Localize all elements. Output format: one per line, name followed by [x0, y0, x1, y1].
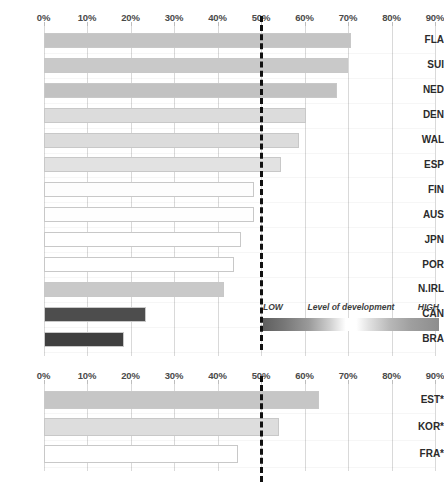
bar-est-	[44, 391, 320, 409]
vertical-gridline	[348, 384, 349, 471]
bottom-chart-plot-area: 0%10%20%30%40%50%60%70%80%90%EST*KOR*FRA…	[0, 370, 444, 488]
row-separator	[44, 227, 436, 228]
category-label-por: POR	[407, 259, 444, 270]
category-label-fra-: FRA*	[407, 448, 444, 459]
bar-aus	[44, 207, 254, 222]
row-separator	[44, 128, 436, 129]
fifty-percent-reference-line	[260, 376, 263, 482]
legend-gradient-bar	[263, 318, 439, 331]
bar-bra	[44, 332, 124, 347]
category-label-est-: EST*	[407, 394, 444, 405]
bar-fin	[44, 182, 255, 197]
category-label-wal: WAL	[407, 134, 444, 145]
bar-fra-	[44, 445, 239, 463]
development-level-legend: LOW Level of development HIGH	[263, 302, 439, 338]
bar-esp	[44, 157, 281, 172]
category-label-jpn: JPN	[407, 234, 444, 245]
bar-n-irl	[44, 282, 225, 297]
row-separator	[44, 467, 436, 468]
category-label-n-irl: N.IRL	[407, 283, 444, 294]
category-label-aus: AUS	[407, 209, 444, 220]
bar-sui	[44, 58, 349, 73]
bar-ned	[44, 83, 338, 98]
bar-jpn	[44, 232, 242, 247]
category-label-esp: ESP	[407, 159, 444, 170]
row-separator	[44, 413, 436, 414]
fifty-percent-reference-line	[260, 16, 263, 350]
bar-can	[44, 307, 147, 322]
row-separator	[44, 252, 436, 253]
bar-kor-	[44, 418, 279, 436]
row-separator	[44, 440, 436, 441]
row-separator	[44, 53, 436, 54]
chart-page: 0%10%20%30%40%50%60%70%80%90%FLASUINEDDE…	[0, 0, 444, 491]
legend-low-label: LOW	[263, 302, 283, 312]
legend-high-label: HIGH	[418, 302, 439, 312]
vertical-gridline	[392, 384, 393, 471]
row-separator	[44, 78, 436, 79]
category-label-kor-: KOR*	[407, 421, 444, 432]
row-separator	[44, 352, 436, 353]
row-separator	[44, 103, 436, 104]
bottom-bar-chart: 0%10%20%30%40%50%60%70%80%90%EST*KOR*FRA…	[0, 370, 444, 488]
row-separator	[44, 202, 436, 203]
category-label-den: DEN	[407, 109, 444, 120]
category-label-fin: FIN	[407, 184, 444, 195]
bar-por	[44, 257, 235, 272]
bar-fla	[44, 33, 352, 48]
row-separator	[44, 177, 436, 178]
category-label-ned: NED	[407, 84, 444, 95]
legend-title-label: Level of development	[308, 302, 395, 312]
category-label-fla: FLA	[407, 34, 444, 45]
row-separator	[44, 153, 436, 154]
category-label-sui: SUI	[407, 59, 444, 70]
bar-den	[44, 108, 306, 123]
row-separator	[44, 277, 436, 278]
